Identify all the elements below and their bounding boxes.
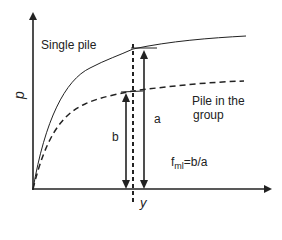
a-label: a <box>154 113 161 125</box>
tick-b <box>121 91 143 92</box>
formula-subscript: ml <box>174 161 184 171</box>
single-pile-label: Single pile <box>41 39 96 51</box>
formula-label: fml=b/a <box>171 156 208 171</box>
b-label: b <box>112 131 119 143</box>
y-axis-label: p <box>12 91 26 99</box>
pile-group-label-1: Pile in the <box>192 95 245 107</box>
pile-group-label-2: group <box>193 109 224 121</box>
formula-rest: =b/a <box>184 155 208 169</box>
x-axis-label: y <box>140 196 147 209</box>
